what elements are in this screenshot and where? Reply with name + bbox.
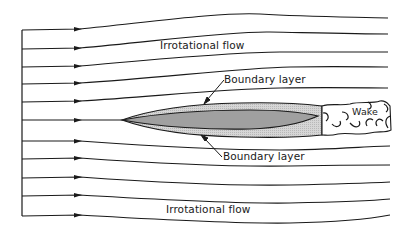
arrow-icon bbox=[74, 81, 82, 86]
arrow-icon bbox=[74, 64, 82, 69]
boundary-layer-label-top: Boundary layer bbox=[224, 73, 306, 85]
streamline-4 bbox=[22, 67, 388, 84]
wake-label: Wake bbox=[352, 106, 378, 117]
flow-arrows bbox=[74, 27, 82, 218]
arrow-icon bbox=[74, 175, 82, 180]
arrow-icon bbox=[74, 139, 82, 144]
streamline-1 bbox=[22, 14, 388, 30]
arrow-icon bbox=[74, 27, 82, 32]
arrow-icon bbox=[74, 118, 82, 123]
irrotational-flow-label-top: Irrotational flow bbox=[160, 39, 244, 51]
boundary-layer-label-bottom: Boundary layer bbox=[223, 150, 305, 162]
arrow-icon bbox=[74, 99, 82, 104]
arrow-icon bbox=[74, 46, 82, 51]
arrow-icon bbox=[74, 193, 82, 198]
arrow-icon bbox=[74, 156, 82, 161]
irrotational-flow-label-bottom: Irrotational flow bbox=[166, 203, 250, 215]
flow-diagram bbox=[0, 0, 407, 232]
arrow-icon bbox=[74, 213, 82, 218]
